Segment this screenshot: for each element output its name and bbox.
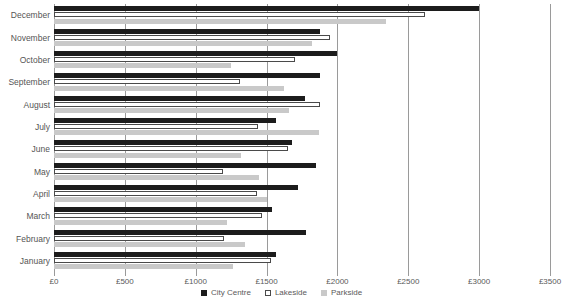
bar-ps: [54, 19, 386, 24]
bar-cc: [54, 207, 272, 212]
bar-group: [54, 227, 550, 249]
bar-ps: [54, 108, 289, 113]
bar-ps: [54, 220, 227, 225]
bar-cc: [54, 96, 305, 101]
axis-tick-label: £0: [50, 277, 59, 286]
bar-cc: [54, 140, 292, 145]
bar-ps: [54, 130, 319, 135]
bar-ls: [54, 236, 224, 241]
bar-group: [54, 183, 550, 205]
axis-tick-label: £2000: [326, 277, 348, 286]
axis-tick-label: £1500: [255, 277, 277, 286]
category-label: April: [0, 189, 50, 199]
bar-group: [54, 160, 550, 182]
category-label: June: [0, 144, 50, 154]
category-label: August: [0, 100, 50, 110]
bar-chart: DecemberNovemberOctoberSeptemberAugustJu…: [0, 0, 563, 300]
value-axis: £0£500£1000£1500£2000£2500£3000£3500: [54, 272, 550, 288]
chart-legend: City CentreLakesideParkside: [0, 288, 563, 297]
bar-ps: [54, 175, 259, 180]
legend-swatch-icon: [321, 290, 327, 296]
category-label: December: [0, 10, 50, 20]
axis-tick: [54, 272, 55, 276]
legend-item-cc[interactable]: City Centre: [201, 288, 251, 297]
bar-ls: [54, 191, 257, 196]
bar-ls: [54, 79, 240, 84]
axis-tick-label: £2500: [397, 277, 419, 286]
legend-label: City Centre: [211, 288, 251, 297]
category-label: January: [0, 256, 50, 266]
gridline: [550, 4, 551, 272]
category-label: March: [0, 211, 50, 221]
bar-ps: [54, 86, 284, 91]
category-label: February: [0, 234, 50, 244]
bar-cc: [54, 252, 276, 257]
category-label: November: [0, 33, 50, 43]
axis-tick: [479, 272, 480, 276]
axis-tick: [337, 272, 338, 276]
category-label: July: [0, 122, 50, 132]
legend-label: Lakeside: [275, 288, 307, 297]
bar-ls: [54, 35, 330, 40]
legend-item-ps[interactable]: Parkside: [321, 288, 362, 297]
bar-cc: [54, 118, 276, 123]
bar-group: [54, 26, 550, 48]
bar-ps: [54, 264, 233, 269]
bar-ls: [54, 169, 223, 174]
legend-item-ls[interactable]: Lakeside: [265, 288, 307, 297]
bar-cc: [54, 230, 306, 235]
category-label: October: [0, 55, 50, 65]
bar-cc: [54, 185, 298, 190]
bar-ps: [54, 63, 231, 68]
bar-ls: [54, 102, 320, 107]
bar-ls: [54, 57, 295, 62]
axis-tick-label: £3000: [468, 277, 490, 286]
bar-group: [54, 116, 550, 138]
bar-ps: [54, 41, 312, 46]
bar-cc: [54, 51, 337, 56]
bar-cc: [54, 163, 316, 168]
category-label: September: [0, 77, 50, 87]
axis-tick-label: £1000: [185, 277, 207, 286]
category-axis-labels: DecemberNovemberOctoberSeptemberAugustJu…: [0, 4, 50, 272]
axis-tick: [125, 272, 126, 276]
bar-group: [54, 250, 550, 272]
plot-area: [54, 4, 550, 272]
bar-ls: [54, 124, 258, 129]
legend-label: Parkside: [331, 288, 362, 297]
bar-group: [54, 93, 550, 115]
axis-tick: [196, 272, 197, 276]
axis-tick: [550, 272, 551, 276]
bar-cc: [54, 73, 320, 78]
bar-group: [54, 205, 550, 227]
bar-ls: [54, 146, 288, 151]
axis-tick-label: £500: [116, 277, 134, 286]
bar-cc: [54, 6, 479, 11]
bar-ps: [54, 197, 267, 202]
bar-ls: [54, 213, 262, 218]
bar-cc: [54, 29, 320, 34]
bar-group: [54, 138, 550, 160]
bar-group: [54, 4, 550, 26]
axis-tick: [408, 272, 409, 276]
category-label: May: [0, 167, 50, 177]
bar-ls: [54, 258, 271, 263]
bar-group: [54, 71, 550, 93]
axis-tick-label: £3500: [539, 277, 561, 286]
legend-swatch-icon: [265, 290, 271, 296]
axis-tick: [267, 272, 268, 276]
bar-ps: [54, 153, 241, 158]
bar-ps: [54, 242, 245, 247]
legend-swatch-icon: [201, 290, 207, 296]
bar-group: [54, 49, 550, 71]
bar-ls: [54, 12, 425, 17]
